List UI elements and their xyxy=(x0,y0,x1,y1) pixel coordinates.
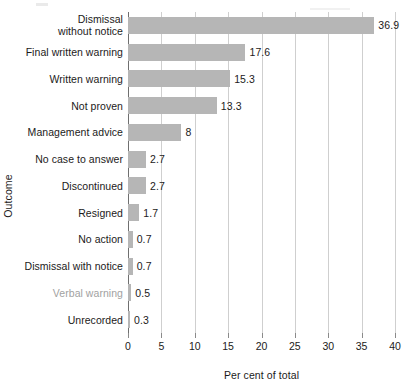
bar[interactable] xyxy=(128,204,139,221)
y-axis-tick-label: Management advice xyxy=(0,119,123,146)
y-axis-tick-label: Dismissal with notice xyxy=(0,253,123,280)
y-axis-tick-label: Discontinued xyxy=(0,173,123,200)
bar[interactable] xyxy=(128,311,130,328)
y-axis-tick-label-line: Not proven xyxy=(71,100,123,112)
plot-area: 36.917.615.313.382.72.71.70.70.70.50.3 xyxy=(128,12,395,333)
y-axis-tick-label-line: Discontinued xyxy=(62,180,123,192)
y-axis-tick-label: Resigned xyxy=(0,199,123,226)
bar-value-label: 17.6 xyxy=(249,46,270,58)
y-axis-tick-label: No case to answer xyxy=(0,146,123,173)
x-axis-tick-mark xyxy=(228,333,229,338)
bar[interactable] xyxy=(128,151,146,168)
bar-row: 8 xyxy=(128,119,395,146)
bar[interactable] xyxy=(128,124,181,141)
bar[interactable] xyxy=(128,70,230,87)
y-axis-tick-label-line: without notice xyxy=(58,25,123,37)
scan-artifact xyxy=(36,3,48,6)
bar[interactable] xyxy=(128,17,374,34)
y-axis-tick-label: Dismissalwithout notice xyxy=(0,12,123,39)
bar-row: 0.5 xyxy=(128,280,395,307)
scan-artifact xyxy=(310,8,350,10)
bar[interactable] xyxy=(128,258,133,275)
bar-value-label: 13.3 xyxy=(221,100,242,112)
x-axis-tick-mark xyxy=(195,333,196,338)
bar-series: 36.917.615.313.382.72.71.70.70.70.50.3 xyxy=(128,12,395,333)
x-axis-tick-label: 35 xyxy=(356,340,368,352)
y-axis-tick-label-line: No action xyxy=(78,233,123,245)
bar[interactable] xyxy=(128,284,131,301)
bar-row: 2.7 xyxy=(128,173,395,200)
y-axis-tick-label-line: Final written warning xyxy=(26,46,123,58)
y-axis-tick-label: Verbal warning xyxy=(0,280,123,307)
y-axis-tick-label: Not proven xyxy=(0,92,123,119)
bar[interactable] xyxy=(128,97,217,114)
bar-chart-figure: Outcome Dismissalwithout noticeFinal wri… xyxy=(0,0,406,392)
bar-value-label: 2.7 xyxy=(150,153,165,165)
bar-row: 1.7 xyxy=(128,199,395,226)
y-axis-tick-label-line: Resigned xyxy=(78,207,123,219)
x-axis-tick-mark xyxy=(362,333,363,338)
y-axis-tick-label: Unrecorded xyxy=(0,306,123,333)
bar-row: 0.7 xyxy=(128,226,395,253)
bar-row: 15.3 xyxy=(128,66,395,93)
bar-value-label: 15.3 xyxy=(234,73,255,85)
bar-row: 36.9 xyxy=(128,12,395,39)
bar-row: 17.6 xyxy=(128,39,395,66)
x-axis-tick-mark xyxy=(328,333,329,338)
bar-value-label: 0.7 xyxy=(137,260,152,272)
x-axis-title: Per cent of total xyxy=(128,369,395,381)
bar-row: 0.7 xyxy=(128,253,395,280)
x-axis-tick-label: 10 xyxy=(189,340,201,352)
x-axis-tick-label: 25 xyxy=(289,340,301,352)
x-axis-tick-label: 15 xyxy=(222,340,234,352)
bar-row: 13.3 xyxy=(128,92,395,119)
x-axis-tick-label: 0 xyxy=(125,340,131,352)
bar-value-label: 8 xyxy=(185,126,191,138)
x-axis-tick-label: 40 xyxy=(389,340,401,352)
x-axis-tick-label: 30 xyxy=(322,340,334,352)
x-axis-tick-mark xyxy=(295,333,296,338)
x-axis-tick-mark xyxy=(262,333,263,338)
y-axis-tick-label-line: No case to answer xyxy=(35,153,123,165)
y-axis-tick-labels: Dismissalwithout noticeFinal written war… xyxy=(0,12,123,333)
x-axis-tick-label: 20 xyxy=(256,340,268,352)
y-axis-tick-label-line: Unrecorded xyxy=(68,314,123,326)
y-axis-tick-label-line: Management advice xyxy=(28,126,123,138)
bar[interactable] xyxy=(128,231,133,248)
x-axis-tick-mark xyxy=(395,333,396,338)
x-axis-tick-mark xyxy=(128,333,129,338)
x-axis-tick-mark xyxy=(161,333,162,338)
y-axis-tick-label: Written warning xyxy=(0,66,123,93)
bar-value-label: 36.9 xyxy=(378,19,399,31)
bar-value-label: 2.7 xyxy=(150,180,165,192)
bar-row: 0.3 xyxy=(128,306,395,333)
y-axis-tick-label-line: Dismissal with notice xyxy=(25,260,124,272)
y-axis-tick-label-line: Verbal warning xyxy=(53,287,123,299)
bar-value-label: 0.5 xyxy=(135,287,150,299)
x-axis-ticks: 0510152025303540 xyxy=(128,333,395,363)
gridline xyxy=(395,12,396,333)
bar-value-label: 0.3 xyxy=(134,314,149,326)
bar[interactable] xyxy=(128,44,245,61)
y-axis-tick-label: Final written warning xyxy=(0,39,123,66)
bar-value-label: 0.7 xyxy=(137,233,152,245)
x-axis-tick-label: 5 xyxy=(158,340,164,352)
y-axis-tick-label: No action xyxy=(0,226,123,253)
y-axis-tick-label-line: Dismissal xyxy=(78,13,123,25)
y-axis-tick-label-line: Written warning xyxy=(49,73,123,85)
bar-value-label: 1.7 xyxy=(143,207,158,219)
bar-row: 2.7 xyxy=(128,146,395,173)
bar[interactable] xyxy=(128,177,146,194)
